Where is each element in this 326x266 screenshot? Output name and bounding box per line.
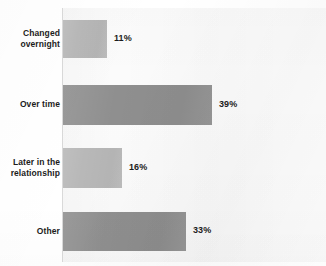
- bar: [63, 148, 122, 188]
- bar-sheen: [63, 20, 107, 58]
- category-label: Changed overnight: [0, 28, 60, 49]
- bar-value-label: 39%: [219, 99, 237, 109]
- category-label-line: Over time: [20, 99, 60, 109]
- category-label-line: Later in the: [13, 157, 60, 167]
- category-label: Other: [0, 226, 60, 237]
- category-label: Over time: [0, 99, 60, 110]
- bar-sheen: [63, 212, 186, 251]
- bar-value-label: 33%: [193, 225, 211, 235]
- bar-sheen: [63, 85, 212, 125]
- category-label-line: overnight: [20, 39, 60, 49]
- bar-row: Changed overnight 11%: [0, 20, 326, 58]
- bar-sheen: [63, 148, 122, 188]
- bar: [63, 212, 186, 251]
- bar-chart: Changed overnight 11% Over time 39% Late…: [0, 0, 326, 266]
- category-label-line: relationship: [11, 168, 60, 178]
- bar-value-label: 11%: [114, 33, 132, 43]
- bar: [63, 20, 107, 58]
- bar-row: Later in the relationship 16%: [0, 148, 326, 188]
- bar-row: Over time 39%: [0, 85, 326, 125]
- category-axis-line: [62, 8, 63, 262]
- bar-row: Other 33%: [0, 212, 326, 251]
- category-label-line: Other: [37, 226, 60, 236]
- category-label: Later in the relationship: [0, 157, 60, 178]
- bar: [63, 85, 212, 125]
- category-label-line: Changed: [23, 28, 60, 38]
- bar-value-label: 16%: [129, 162, 147, 172]
